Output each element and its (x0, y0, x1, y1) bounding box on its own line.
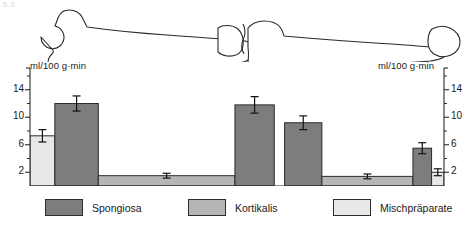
bar-2 (55, 104, 98, 187)
bone-outline-icon (0, 2, 474, 62)
figure-root: 5.6 ml/100 g·min ml/100 g·min (0, 0, 474, 235)
bar-chart (30, 76, 444, 186)
chart-legend: Spongiosa Kortikalis Mischpräparate (45, 199, 465, 223)
ytick-label-left-2: 2 (10, 165, 24, 176)
bar-4 (235, 105, 274, 186)
ytick-label-right-14: 14 (451, 83, 462, 94)
legend-item-mischpraeparate: Mischpräparate (333, 199, 452, 216)
ytick-label-left-14: 14 (10, 83, 24, 94)
legend-label-kortikalis: Kortikalis (235, 202, 278, 214)
bar-5 (285, 123, 322, 186)
legend-item-spongiosa: Spongiosa (45, 199, 142, 216)
ytick-label-right-10: 10 (451, 110, 462, 121)
ytick-label-right-6: 6 (451, 138, 457, 149)
ytick-label-left-10: 10 (10, 110, 24, 121)
ytick-label-right-2: 2 (451, 165, 457, 176)
legend-swatch-kortikalis (188, 199, 226, 216)
legend-item-kortikalis: Kortikalis (188, 199, 278, 216)
legend-swatch-spongiosa (45, 199, 83, 216)
bar-1 (30, 136, 55, 186)
ytick-label-left-6: 6 (10, 138, 24, 149)
legend-swatch-mischpraeparate (333, 199, 371, 216)
legend-label-mischpraeparate: Mischpräparate (380, 202, 452, 214)
axis-label-left: ml/100 g·min (30, 60, 86, 71)
axis-label-right: ml/100 g·min (378, 60, 434, 71)
legend-label-spongiosa: Spongiosa (92, 202, 142, 214)
